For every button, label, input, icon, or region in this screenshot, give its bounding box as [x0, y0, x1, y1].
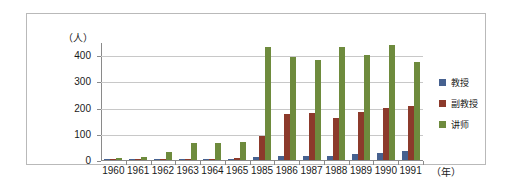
bar: [414, 62, 420, 160]
legend-label-professor: 教授: [451, 76, 469, 89]
bar-group: [104, 43, 122, 160]
x-axis-tick: [250, 161, 251, 165]
y-axis-tick: [97, 161, 101, 162]
y-axis-tick: [97, 109, 101, 110]
chart-screenshot: （人） （年） 0100200300400 196019611962196319…: [0, 0, 518, 191]
bar: [141, 157, 147, 160]
x-axis-tick: [299, 161, 300, 165]
bar: [116, 158, 122, 160]
bar-group: [278, 43, 296, 160]
bar: [389, 45, 395, 160]
x-axis-tick-label: 1991: [395, 165, 427, 176]
chart-frame: （人） （年） 0100200300400 196019611962196319…: [26, 13, 486, 165]
bar: [339, 47, 345, 160]
legend-swatch-icon-lecturer: [439, 121, 446, 128]
bar-group: [303, 43, 321, 160]
x-axis-tick: [324, 161, 325, 165]
bar-group: [253, 43, 271, 160]
x-axis-tick: [175, 161, 176, 165]
chart-legend: 教授 副教授 讲师: [439, 74, 499, 137]
bar: [290, 57, 296, 160]
bar: [191, 143, 197, 160]
bar-group: [203, 43, 221, 160]
x-axis-tick: [200, 161, 201, 165]
bar: [240, 142, 246, 160]
bar-group: [327, 43, 345, 160]
y-axis-tick-label: 100: [74, 130, 91, 140]
legend-label-associate-professor: 副教授: [451, 97, 478, 110]
legend-swatch-icon-professor: [439, 79, 446, 86]
bar-group: [228, 43, 246, 160]
legend-item-lecturer: 讲师: [439, 116, 499, 132]
y-axis-tick: [97, 82, 101, 83]
y-axis-tick-label: 400: [74, 51, 91, 61]
bar-group: [154, 43, 172, 160]
x-axis-tick: [423, 161, 424, 165]
x-axis-tick: [398, 161, 399, 165]
legend-swatch-icon-associate-professor: [439, 100, 446, 107]
x-axis-tick: [151, 161, 152, 165]
bar: [315, 60, 321, 160]
bar: [265, 47, 271, 160]
bar-group: [179, 43, 197, 160]
plot-area: [101, 43, 423, 161]
legend-label-lecturer: 讲师: [451, 118, 469, 131]
x-axis-title: （年）: [431, 164, 461, 179]
x-axis-tick: [349, 161, 350, 165]
y-axis-tick: [97, 56, 101, 57]
x-axis-tick: [126, 161, 127, 165]
legend-item-professor: 教授: [439, 74, 499, 90]
bar: [215, 143, 221, 160]
bar-group: [377, 43, 395, 160]
bar: [364, 55, 370, 160]
bar-group: [129, 43, 147, 160]
bar: [166, 152, 172, 160]
x-axis-tick: [274, 161, 275, 165]
y-axis-tick-label: 0: [85, 156, 91, 166]
x-axis-line: [101, 160, 423, 161]
x-axis-tick: [225, 161, 226, 165]
y-axis-tick-label: 200: [74, 104, 91, 114]
y-axis-tick: [97, 135, 101, 136]
bar-group: [402, 43, 420, 160]
bar-group: [352, 43, 370, 160]
legend-item-associate-professor: 副教授: [439, 95, 499, 111]
y-axis-tick-label: 300: [74, 77, 91, 87]
y-axis-title: （人）: [63, 30, 93, 45]
x-axis-tick: [373, 161, 374, 165]
y-axis-line: [101, 43, 102, 161]
